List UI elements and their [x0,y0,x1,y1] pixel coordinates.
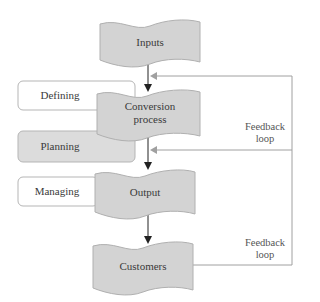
planning-label: Planning [25,140,95,153]
feedback-upper-line2: loop [240,133,290,145]
arrow-down-icon [144,162,152,170]
feedback-lower-line2: loop [240,249,290,261]
conversion-label-line2: process [105,113,195,126]
feedback-lower-line1: Feedback [240,237,290,249]
feedback-arrowhead-lower-icon [150,146,157,154]
feedback-upper-line1: Feedback [240,121,290,133]
feedback-loop-upper-label: Feedback loop [240,121,290,145]
feedback-arrowhead-upper-icon [150,72,157,80]
conversion-label-line1: Conversion [105,100,195,113]
inputs-label: Inputs [118,36,182,49]
managing-label: Managing [22,185,92,198]
customers-label: Customers [103,260,183,273]
output-label: Output [110,186,180,199]
arrow-down-icon [144,236,152,244]
feedback-loop-lower-label: Feedback loop [240,237,290,261]
arrow-down-icon [144,84,152,92]
defining-label: Defining [25,89,95,102]
conversion-process-label: Conversion process [105,100,195,126]
